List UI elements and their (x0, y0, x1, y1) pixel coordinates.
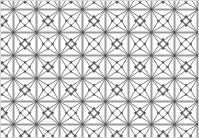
tiling-vertex (12, 54, 14, 56)
tiling-vertex (47, 93, 49, 95)
tiling-vertex (51, 135, 53, 137)
tiling-vertex (150, 8, 152, 10)
tiling-vertex (70, 38, 72, 40)
tiling-vertex (189, 112, 191, 114)
tiling-vertex (196, 8, 198, 10)
tiling-vertex (134, 135, 136, 137)
tiling-vertex (42, 112, 44, 114)
tiling-vertex (189, 135, 191, 137)
tiling-vertex (47, 116, 49, 118)
tiling-vertex (157, 135, 159, 137)
tiling-vertex (162, 93, 164, 95)
tiling-vertex (150, 54, 152, 56)
tiling-vertex (185, 47, 187, 49)
tiling-edge-thin (7, 1, 14, 10)
tiling-vertex (134, 66, 136, 68)
tiling-vertex (58, 31, 60, 33)
tiling-vertex (111, 89, 113, 91)
tiling-vertex (35, 31, 37, 33)
tiling-vertex (12, 100, 14, 102)
tiling-vertex (74, 43, 76, 45)
tiling-vertex (28, 20, 30, 22)
tiling-vertex (51, 43, 53, 45)
tiling-vertex (180, 89, 182, 91)
tiling-vertex (12, 77, 14, 79)
tiling-vertex (116, 24, 118, 26)
tiling-vertex (104, 54, 106, 56)
tiling-vertex (104, 123, 106, 125)
tiling-vertex (19, 43, 21, 45)
tiling-vertex (24, 84, 26, 86)
tiling-vertex (5, 112, 7, 114)
tiling-vertex (5, 43, 7, 45)
tiling-vertex (139, 1, 141, 3)
tiling-edge-thin (1, 10, 14, 22)
tiling-vertex (58, 77, 60, 79)
tiling-vertex (120, 135, 122, 137)
tiling-vertex (28, 66, 30, 68)
tiling-vertex (185, 93, 187, 95)
tiling-vertex (97, 66, 99, 68)
tiling-vertex (42, 66, 44, 68)
tiling-vertex (88, 20, 90, 22)
tiling-vertex (42, 43, 44, 45)
tiling-vertex (47, 1, 49, 3)
tiling-vertex (81, 54, 83, 56)
tiling-vertex (185, 116, 187, 118)
tiling-vertex (157, 112, 159, 114)
tiling-vertex (58, 8, 60, 10)
tiling-vertex (74, 66, 76, 68)
tiling-edge-thin (1, 56, 14, 68)
tiling-edge-thin (1, 136, 2, 138)
tiling-vertex (5, 135, 7, 137)
tiling-vertex (47, 24, 49, 26)
tiling-vertex (51, 112, 53, 114)
tiling-vertex (185, 84, 187, 86)
tiling-vertex (127, 8, 129, 10)
tiling-edge-thin (145, 1, 152, 10)
tiling-edge-thin (14, 1, 30, 10)
tiling-vertex (157, 66, 159, 68)
tiling-vertex (70, 61, 72, 63)
tiling-vertex (24, 130, 26, 132)
tiling-vertex (162, 15, 164, 17)
tiling-vertex (51, 66, 53, 68)
tiling-vertex (47, 70, 49, 72)
tiling-vertex (47, 61, 49, 63)
tiling-vertex (116, 47, 118, 49)
tiling-vertex (35, 123, 37, 125)
tiling-vertex (81, 31, 83, 33)
tiling-vertex (139, 107, 141, 109)
tiling-vertex (196, 100, 198, 102)
tiling-vertex (180, 112, 182, 114)
tiling-edge-thin (53, 1, 60, 10)
tiling-vertex (24, 61, 26, 63)
tiling-vertex (162, 84, 164, 86)
tiling-vertex (185, 38, 187, 40)
tiling-vertex (88, 112, 90, 114)
tiling-vertex (120, 89, 122, 91)
tiling-vertex (88, 66, 90, 68)
tiling-vertex (116, 130, 118, 132)
tiling-vertex (189, 66, 191, 68)
tiling-vertex (93, 70, 95, 72)
tiling-vertex (19, 135, 21, 137)
tiling-edge-thin (66, 1, 82, 10)
tiling-vertex (116, 38, 118, 40)
tiling-vertex (189, 89, 191, 91)
tiling-vertex (70, 1, 72, 3)
tiling-vertex (65, 112, 67, 114)
tiling-edge-thin (60, 1, 76, 10)
tiling-vertex (24, 70, 26, 72)
tiling-vertex (157, 43, 159, 45)
tiling-vertex (150, 100, 152, 102)
tiling-vertex (134, 112, 136, 114)
tiling-vertex (185, 70, 187, 72)
tiling-vertex (143, 43, 145, 45)
tiling-vertex (97, 135, 99, 137)
tiling-vertex (196, 31, 198, 33)
edge-layer-thin (1, 1, 199, 138)
tiling-vertex (97, 43, 99, 45)
tiling-vertex (93, 24, 95, 26)
tiling-vertex (5, 89, 7, 91)
